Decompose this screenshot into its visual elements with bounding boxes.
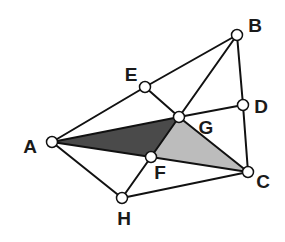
point-B-marker — [232, 30, 243, 41]
edges — [52, 35, 248, 198]
point-H-marker — [117, 193, 128, 204]
label-D: D — [254, 96, 268, 117]
point-D-marker — [238, 100, 249, 111]
label-A: A — [23, 136, 37, 157]
label-E: E — [125, 64, 138, 85]
edge-EB — [145, 35, 237, 87]
edge-HC — [122, 172, 248, 198]
geometry-diagram: ABCDEFGH — [0, 0, 285, 242]
point-E-marker — [140, 82, 151, 93]
edge-BD — [237, 35, 243, 105]
label-B: B — [248, 15, 262, 36]
label-G: G — [199, 117, 214, 138]
edge-HF — [122, 157, 151, 198]
point-C-marker — [243, 167, 254, 178]
point-labels: ABCDEFGH — [23, 15, 270, 229]
edge-EG — [145, 87, 179, 117]
point-G-marker — [174, 112, 185, 123]
label-H: H — [117, 208, 131, 229]
edge-BG — [179, 35, 237, 117]
edge-GD — [179, 105, 243, 117]
label-F: F — [154, 162, 166, 183]
label-C: C — [256, 171, 270, 192]
edge-DC — [243, 105, 248, 172]
point-A-marker — [47, 137, 58, 148]
